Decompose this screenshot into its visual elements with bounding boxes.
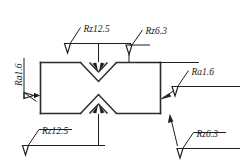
top-right-annotation-leader bbox=[132, 30, 143, 45]
bottom-left-roughness-label: Rz12.5 bbox=[41, 126, 68, 136]
right-face-arrowhead bbox=[161, 94, 172, 100]
left-face-arrowhead bbox=[34, 93, 40, 98]
bottom-face-arrowhead bbox=[168, 114, 173, 123]
top-right-roughness-triangle-icon bbox=[126, 45, 132, 55]
right-annotation-leader bbox=[178, 71, 189, 87]
drawing-svg: Rz12.5 Rz6.3 Ra1.6 Ra1.6 Rz12.5 bbox=[0, 0, 244, 161]
right-roughness-label: Ra1.6 bbox=[191, 67, 215, 77]
bottom-right-roughness-label: Rz6.3 bbox=[196, 129, 219, 139]
top-roughness-label: Rz12.5 bbox=[83, 24, 110, 34]
left-roughness-label: Ra1.6 bbox=[14, 63, 24, 87]
bottom-left-roughness-triangle-icon bbox=[23, 146, 29, 156]
bottom-right-annotation-stem bbox=[171, 119, 178, 146]
top-roughness-triangle-icon bbox=[65, 44, 71, 54]
technical-drawing-canvas: Rz12.5 Rz6.3 Ra1.6 Ra1.6 Rz12.5 bbox=[0, 0, 244, 161]
top-notch-inner-diamond bbox=[90, 63, 108, 73]
bottom-right-roughness-triangle-icon bbox=[177, 149, 183, 159]
top-annotation-leader bbox=[71, 28, 81, 44]
bottom-notch-inner-diamond bbox=[90, 104, 108, 114]
bottom-left-annotation-leader bbox=[29, 130, 40, 146]
bottom-right-annotation-leader bbox=[183, 133, 194, 149]
top-right-roughness-label: Rz6.3 bbox=[145, 26, 168, 36]
